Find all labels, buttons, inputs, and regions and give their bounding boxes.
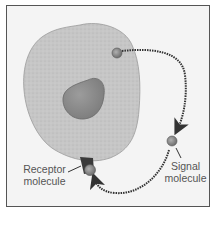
signal-label: Signal molecule (163, 160, 208, 184)
receptor-label-line1: Receptor (22, 163, 67, 175)
receptor-label-line2: molecule (22, 175, 67, 187)
signal-molecule (167, 136, 177, 146)
signal-molecule-inside (112, 48, 122, 58)
signal-pointer (176, 148, 181, 158)
bound-signal-molecule (85, 165, 96, 176)
receptor-label: Receptor molecule (22, 163, 67, 187)
signal-label-line2: molecule (163, 172, 208, 184)
signal-label-line1: Signal (163, 160, 208, 172)
receptor-pointer (68, 166, 81, 172)
